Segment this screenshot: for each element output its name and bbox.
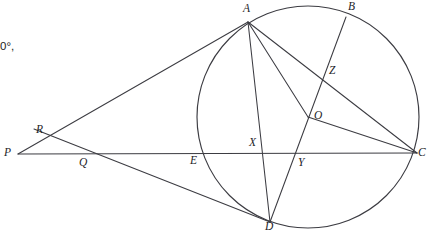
segment-group <box>18 17 417 222</box>
geometry-figure: 0°, A B C D E O P Q R X Y Z <box>0 0 428 231</box>
point-label-Z: Z <box>329 65 335 77</box>
segment-P-A <box>18 22 248 154</box>
point-label-R: R <box>36 124 43 136</box>
point-label-C: C <box>418 147 426 159</box>
segment-O-C <box>308 117 417 153</box>
point-label-X: X <box>249 137 256 149</box>
geometry-canvas <box>0 0 428 231</box>
point-label-A: A <box>243 3 250 15</box>
point-label-B: B <box>348 1 355 13</box>
point-label-P: P <box>4 147 11 159</box>
point-label-O: O <box>314 110 322 122</box>
point-label-Q: Q <box>79 157 87 169</box>
point-label-D: D <box>265 221 273 231</box>
point-label-Y: Y <box>298 157 304 169</box>
point-label-E: E <box>190 155 197 167</box>
segment-P-C <box>18 153 417 154</box>
angle-annotation-text: 0°, <box>0 41 14 53</box>
segment-A-C <box>248 22 417 153</box>
segment-R-D <box>34 129 270 222</box>
